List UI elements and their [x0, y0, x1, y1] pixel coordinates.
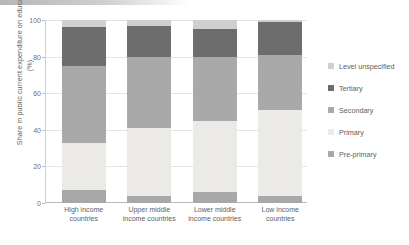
bar-segment-secondary — [193, 57, 237, 121]
bar-segment-tertiary — [258, 22, 302, 55]
y-tick-label: 40 — [33, 126, 41, 133]
legend-item-primary[interactable]: Primary — [328, 121, 408, 143]
legend-item-secondary[interactable]: Secondary — [328, 99, 408, 121]
legend-label: Level unspecified — [339, 62, 395, 71]
bar-segment-pre-primary — [193, 192, 237, 203]
bar-4 — [258, 20, 302, 203]
legend-item-tertiary[interactable]: Tertiary — [328, 77, 408, 99]
bar-segment-primary — [127, 128, 171, 196]
bar-1 — [62, 20, 106, 203]
plot-area: 020406080100 High incomecountriesUpper m… — [45, 20, 307, 203]
bar-segment-level-unspecified — [193, 20, 237, 29]
legend-label: Tertiary — [339, 84, 363, 93]
bar-segment-tertiary — [193, 29, 237, 56]
legend-swatch-icon — [328, 63, 334, 69]
legend-swatch-icon — [328, 85, 334, 91]
legend-swatch-icon — [328, 129, 334, 135]
bar-segment-secondary — [258, 55, 302, 110]
bar-segment-tertiary — [62, 27, 106, 65]
bar-segment-secondary — [62, 66, 106, 143]
y-tick-label: 80 — [33, 53, 41, 60]
legend-label: Primary — [339, 128, 364, 137]
x-label-line1: Low income — [237, 205, 323, 214]
bar-2 — [127, 20, 171, 203]
bar-segment-primary — [62, 143, 106, 191]
y-tick-mark — [42, 93, 45, 94]
y-tick-mark — [42, 166, 45, 167]
y-tick-label: 20 — [33, 163, 41, 170]
bar-segment-level-unspecified — [258, 20, 302, 22]
legend-swatch-icon — [328, 151, 334, 157]
y-tick-mark — [42, 57, 45, 58]
x-label-line2: countries — [237, 214, 323, 223]
legend-swatch-icon — [328, 107, 334, 113]
bar-segment-pre-primary — [62, 190, 106, 203]
y-tick-mark — [42, 203, 45, 204]
bar-segment-secondary — [127, 57, 171, 128]
bar-segment-primary — [258, 110, 302, 196]
bar-3 — [193, 20, 237, 203]
legend-item-level-unspecified[interactable]: Level unspecified — [328, 55, 408, 77]
legend-label: Pre-primary — [339, 150, 377, 159]
legend-item-pre-primary[interactable]: Pre-primary — [328, 143, 408, 165]
y-tick-mark — [42, 130, 45, 131]
bar-segment-primary — [193, 121, 237, 192]
bar-segment-level-unspecified — [127, 20, 171, 25]
bar-segment-level-unspecified — [62, 20, 106, 27]
x-axis-label-4: Low incomecountries — [237, 205, 323, 223]
legend-label: Secondary — [339, 106, 373, 115]
chart-legend: Level unspecifiedTertiarySecondaryPrimar… — [328, 55, 408, 165]
stacked-bar-chart: Share in public current expenditure on e… — [0, 0, 409, 245]
y-tick-label: 100 — [29, 17, 41, 24]
y-tick-label: 60 — [33, 90, 41, 97]
bar-segment-pre-primary — [127, 196, 171, 203]
y-axis-line — [45, 20, 46, 203]
bar-segment-pre-primary — [258, 196, 302, 203]
bar-segment-tertiary — [127, 26, 171, 57]
y-tick-mark — [42, 20, 45, 21]
